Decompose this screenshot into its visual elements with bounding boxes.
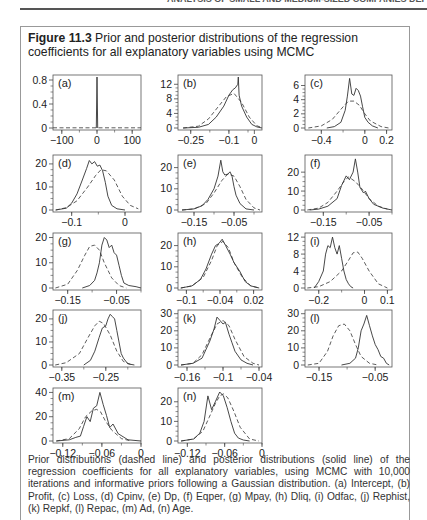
x-tick-label: −0.05 <box>356 216 383 228</box>
y-tick-label: 0 <box>293 204 299 216</box>
y-tick-label: 10 <box>160 341 172 353</box>
panel-j: 01020−0.35−0.25(j) <box>35 310 141 383</box>
y-tick-label: 0 <box>166 359 172 371</box>
x-tick-label: 0 <box>362 294 368 306</box>
y-tick-label: 20 <box>287 166 299 178</box>
y-tick-label: 0 <box>41 359 47 371</box>
panel-label: (c) <box>310 77 323 89</box>
x-tick-label: −0.25 <box>177 134 204 146</box>
panel-m: 02040−0.12−0.060(m) <box>35 386 144 459</box>
y-tick-label: 10 <box>287 341 299 353</box>
prior-line <box>181 241 259 288</box>
y-tick-label: 10 <box>287 185 299 197</box>
y-tick-label: 10 <box>35 335 47 347</box>
y-tick-label: 20 <box>160 395 172 407</box>
y-tick-label: 10 <box>35 180 47 192</box>
y-tick-label: 40 <box>35 386 47 398</box>
panel-label: (l) <box>310 312 320 324</box>
posterior-line <box>96 77 97 128</box>
y-tick-label: 30 <box>160 307 172 319</box>
y-tick-label: 0 <box>41 435 47 447</box>
y-tick-label: 20 <box>35 157 47 169</box>
panel-d: 01020−0.10(d) <box>35 155 141 228</box>
prior-line <box>55 245 126 288</box>
panel-k: 0102030−0.16−0.1−0.04(k) <box>160 307 272 383</box>
panel-label: (n) <box>183 390 196 402</box>
y-tick-label: 8 <box>166 92 172 104</box>
y-tick-label: 10 <box>35 256 47 268</box>
x-tick-label: −0.15 <box>54 294 81 306</box>
y-tick-label: 0 <box>166 122 172 134</box>
panel-label: (d) <box>58 157 71 169</box>
y-tick-label: 20 <box>160 324 172 336</box>
posterior-line <box>342 315 390 365</box>
y-tick-label: 10 <box>160 182 172 194</box>
y-tick-label: 0 <box>293 359 299 371</box>
y-tick-label: 12 <box>287 231 299 243</box>
panel-label: (g) <box>58 235 71 247</box>
y-tick-label: 4 <box>166 107 172 119</box>
x-tick-label: −0.04 <box>246 371 273 383</box>
prior-line <box>308 324 378 365</box>
panel-label: (m) <box>58 390 75 402</box>
panel-label: (k) <box>183 312 196 324</box>
panel-n: 01020−0.12−0.060(n) <box>160 388 265 459</box>
y-tick-label: 10 <box>160 260 172 272</box>
prior-line <box>182 174 260 210</box>
y-tick-label: 0.8 <box>32 74 47 86</box>
y-tick-label: 4 <box>293 265 299 277</box>
y-tick-label: 8 <box>293 248 299 260</box>
figure-panels: 00.40.8−1000100(a)04812−0.25−0.10(b)0246… <box>0 0 427 520</box>
y-tick-label: 0 <box>166 435 172 447</box>
y-tick-label: 0 <box>293 282 299 294</box>
y-tick-label: 20 <box>35 410 47 422</box>
panel-b: 04812−0.25−0.10(b) <box>160 75 262 146</box>
x-tick-label: −0.15 <box>310 216 337 228</box>
x-tick-label: 0.1 <box>380 294 395 306</box>
x-tick-label: −0.16 <box>174 371 201 383</box>
y-tick-label: 10 <box>160 415 172 427</box>
panel-a: 00.40.8−1000100(a) <box>32 74 141 147</box>
panel-label: (i) <box>310 235 320 247</box>
x-tick-label: −100 <box>50 134 74 146</box>
y-tick-label: 0 <box>166 204 172 216</box>
x-tick-label: 0 <box>362 134 368 146</box>
posterior-line <box>310 159 392 210</box>
panel-label: (a) <box>58 77 71 89</box>
panel-h: 01020−0.1−0.040.02(h) <box>160 233 264 306</box>
x-tick-label: −0.05 <box>103 294 130 306</box>
y-tick-label: 20 <box>160 161 172 173</box>
panel-l: 0102030−0.15−0.05(l) <box>287 307 392 383</box>
x-tick-label: 100 <box>123 134 141 146</box>
x-tick-label: −0.15 <box>306 371 333 383</box>
prior-line <box>308 101 388 128</box>
x-tick-label: −0.4 <box>311 134 332 146</box>
x-tick-label: −0.1 <box>219 134 240 146</box>
x-tick-label: 0 <box>251 134 257 146</box>
y-tick-label: 30 <box>287 307 299 319</box>
y-tick-label: 20 <box>35 312 47 324</box>
y-tick-label: 20 <box>287 324 299 336</box>
x-tick-label: 0.2 <box>379 134 394 146</box>
prior-line <box>56 170 139 210</box>
y-tick-label: 0 <box>41 204 47 216</box>
panel-g: 01020−0.15−0.05(g) <box>35 231 141 306</box>
panel-label: (h) <box>183 235 196 247</box>
x-tick-label: −0.1 <box>61 216 82 228</box>
posterior-line <box>82 238 141 289</box>
y-tick-label: 0 <box>166 282 172 294</box>
x-tick-label: −0.05 <box>221 216 248 228</box>
y-tick-label: 20 <box>35 231 47 243</box>
figure-caption: Prior distributions (dashed line) and po… <box>28 454 410 515</box>
y-tick-label: 12 <box>160 78 172 90</box>
posterior-line <box>84 314 135 365</box>
x-tick-label: −0.35 <box>49 371 76 383</box>
y-tick-label: 0.4 <box>32 98 47 110</box>
y-tick-label: 6 <box>293 79 299 91</box>
panel-label: (j) <box>58 312 68 324</box>
prior-line <box>181 321 259 366</box>
panel-label: (e) <box>183 157 196 169</box>
y-tick-label: 20 <box>160 239 172 251</box>
y-tick-label: 2 <box>293 107 299 119</box>
prior-line <box>56 409 131 441</box>
